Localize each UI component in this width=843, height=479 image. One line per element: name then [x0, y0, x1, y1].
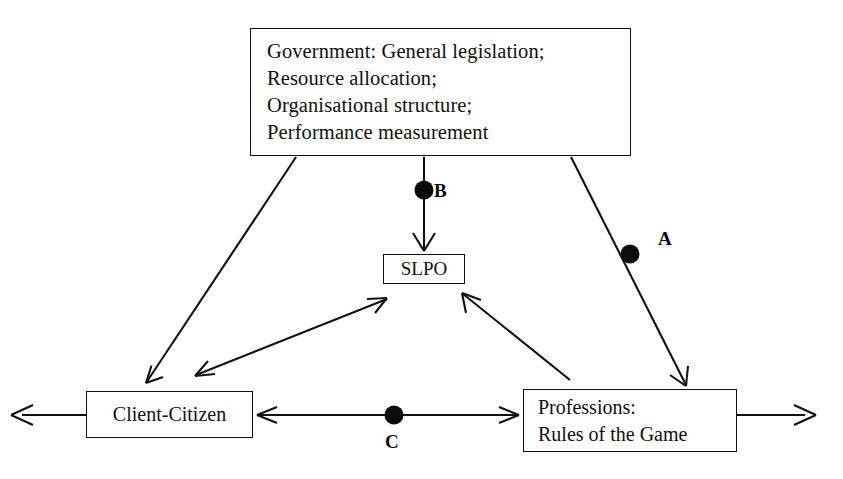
edge-professions-outward-right: [737, 405, 816, 425]
edge-marker-dot-a: [621, 245, 640, 264]
edge-marker-dot-c: [385, 406, 404, 425]
node-client-citizen-label: Client-Citizen: [113, 401, 226, 427]
edge-government-to-client-citizen: [146, 157, 296, 383]
node-professions: Professions: Rules of the Game: [523, 389, 737, 452]
edge-government-to-professions: [571, 157, 688, 386]
node-professions-label: Professions: Rules of the Game: [538, 394, 687, 447]
node-client-citizen: Client-Citizen: [86, 391, 253, 438]
node-slpo: SLPO: [383, 254, 465, 284]
edge-label-c: C: [385, 432, 399, 451]
edge-professions-to-slpo: [462, 293, 570, 380]
edge-client-citizen-to-slpo: [195, 298, 387, 376]
node-government-label: Government: General legislation; Resourc…: [267, 38, 545, 146]
edge-client-citizen-outward-left: [11, 405, 86, 425]
edge-government-to-slpo: [413, 157, 435, 251]
edge-marker-dot-b: [415, 181, 434, 200]
edge-client-citizen-to-professions: [257, 406, 519, 425]
node-slpo-label: SLPO: [401, 256, 447, 281]
edge-label-a: A: [658, 229, 672, 248]
node-government: Government: General legislation; Resourc…: [250, 28, 631, 156]
diagram-canvas: Government: General legislation; Resourc…: [0, 0, 843, 479]
edge-label-b: B: [434, 181, 447, 200]
